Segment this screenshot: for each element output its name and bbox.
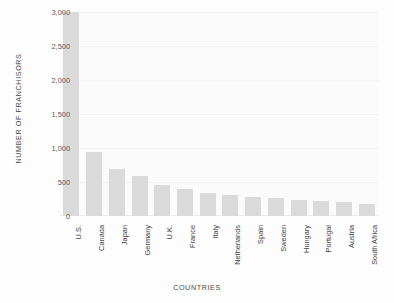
gridline — [60, 12, 378, 13]
bar[interactable] — [86, 152, 102, 216]
bar[interactable] — [200, 193, 216, 216]
bar[interactable] — [132, 176, 148, 216]
y-axis-tick-label: 1,000 — [30, 144, 70, 153]
x-axis-tick-label: Sweden — [279, 222, 288, 302]
gridline — [60, 182, 378, 183]
x-axis-tick-label: Austria — [347, 222, 356, 302]
x-axis-tick-label: Italy — [211, 222, 220, 302]
gridline — [60, 148, 378, 149]
bar[interactable] — [109, 169, 125, 216]
bar[interactable] — [336, 202, 352, 216]
x-axis-tick-label: Japan — [120, 222, 129, 302]
x-axis-tick-label: Germany — [143, 222, 152, 302]
x-axis-title: Countries — [0, 283, 394, 292]
bar[interactable] — [245, 197, 261, 216]
x-axis-tick-label: Spain — [256, 222, 265, 302]
x-axis-tick-label: Netherlands — [233, 222, 242, 302]
x-axis-tick-label: U.K. — [165, 222, 174, 302]
y-axis-tick-label: 2,500 — [30, 42, 70, 51]
y-axis-tick-label: 3,000 — [30, 8, 70, 17]
bar-chart: Number of Franchisors Countries 05001,00… — [0, 0, 394, 303]
y-axis-tick-label: 2,000 — [30, 76, 70, 85]
x-axis-tick-label: France — [188, 222, 197, 302]
bar[interactable] — [359, 204, 375, 216]
y-axis-title: Number of Franchisors — [14, 39, 23, 179]
x-axis-tick-label: South Africa — [370, 222, 379, 302]
bar[interactable] — [313, 201, 329, 216]
gridline — [60, 114, 378, 115]
y-axis-tick-label: 1,500 — [30, 110, 70, 119]
gridline — [60, 46, 378, 47]
axis-baseline — [60, 215, 378, 216]
bar[interactable] — [291, 200, 307, 216]
gridline — [60, 80, 378, 81]
x-axis-tick-label: Portugal — [324, 222, 333, 302]
bar[interactable] — [268, 198, 284, 216]
bar[interactable] — [177, 189, 193, 216]
plot-area — [60, 12, 378, 216]
x-axis-tick-label: Canada — [97, 222, 106, 302]
y-axis-tick-label: 0 — [30, 212, 70, 221]
x-axis-tick-label: Hungary — [302, 222, 311, 302]
y-axis-tick-label: 500 — [30, 178, 70, 187]
x-axis-tick-label: U.S. — [74, 222, 83, 302]
bar[interactable] — [222, 195, 238, 216]
bar[interactable] — [154, 185, 170, 216]
